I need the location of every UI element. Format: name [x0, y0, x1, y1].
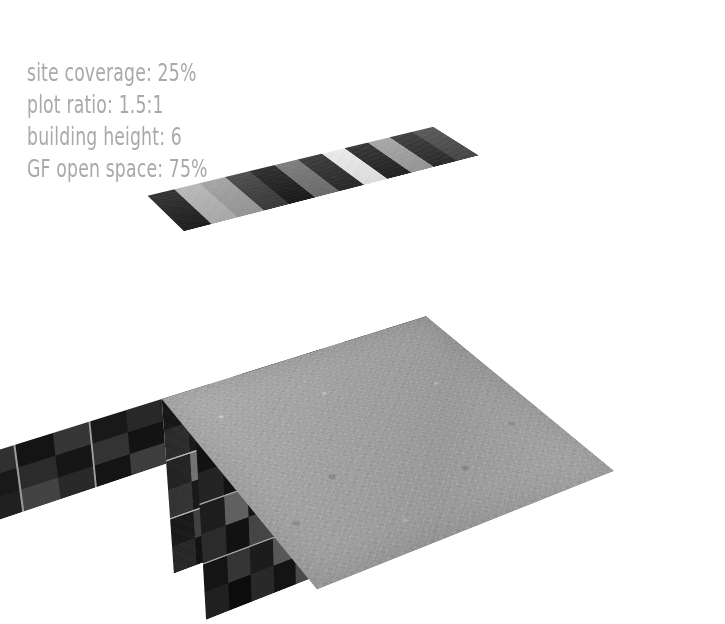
facade-cell [233, 370, 257, 408]
facade-cell [322, 342, 343, 379]
massing-metrics-list: site coverage: 25% plot ratio: 1.5:1 bui… [27, 57, 307, 185]
end-facade-cell [0, 490, 24, 524]
metric-site-coverage: site coverage: 25% [27, 57, 251, 89]
facade-cell [162, 391, 188, 429]
scene-world [162, 235, 725, 624]
end-facade-cell [242, 385, 275, 417]
facade-cell [209, 377, 234, 415]
end-facade-cell [337, 356, 367, 386]
metric-gf-open-space: GF open space: 75% [27, 153, 251, 185]
facade-cell [385, 323, 406, 359]
metric-building-height: building height: 6 [27, 121, 251, 153]
facade-cell [405, 316, 426, 352]
end-facade-cell [367, 346, 397, 376]
facade-cell [364, 329, 385, 365]
facade-cell [278, 356, 301, 393]
facade-cell [344, 335, 365, 371]
end-facade-cell [275, 375, 307, 406]
ground-slab-edge [317, 471, 614, 594]
building-left-end-facade [0, 399, 166, 537]
facade-cell [300, 349, 322, 386]
end-facade-cell [396, 337, 425, 367]
facade-cell [256, 363, 279, 400]
end-facade-cell [306, 365, 337, 396]
left-end-grid [0, 399, 166, 537]
facade-cell [186, 384, 211, 422]
metric-plot-ratio: plot ratio: 1.5:1 [27, 89, 251, 121]
